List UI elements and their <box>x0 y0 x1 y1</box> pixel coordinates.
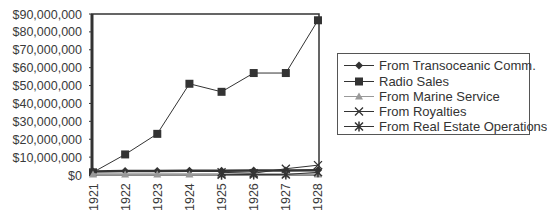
square-marker <box>185 80 193 88</box>
y-tick-label: $40,000,000 <box>12 97 82 111</box>
legend-label: From Marine Service <box>379 89 500 104</box>
x-tick-label: 1924 <box>183 183 197 211</box>
y-tick-label: $60,000,000 <box>12 61 82 75</box>
legend-label: From Royalties <box>379 104 466 119</box>
series-lines <box>89 16 322 179</box>
y-tick-label: $70,000,000 <box>12 43 82 57</box>
x-tick-label: 1925 <box>215 183 229 211</box>
square-marker <box>250 69 258 77</box>
x-tick-label: 1922 <box>119 183 133 211</box>
legend-item: From Transoceanic Comm. <box>338 58 536 73</box>
x-tick-label: 1923 <box>151 183 165 211</box>
square-marker <box>121 150 129 158</box>
y-tick-label: $10,000,000 <box>12 151 82 165</box>
square-icon <box>342 74 376 89</box>
y-axis: $0$10,000,000$20,000,000$30,000,000$40,0… <box>12 8 92 183</box>
y-tick-label: $80,000,000 <box>12 25 82 39</box>
square-marker <box>218 88 226 96</box>
square-marker <box>153 130 161 138</box>
y-tick-label: $50,000,000 <box>12 79 82 93</box>
y-tick-label: $90,000,000 <box>12 8 82 22</box>
legend: From Transoceanic Comm.Radio SalesFrom M… <box>337 53 530 135</box>
series-radio-sales <box>89 16 322 176</box>
diamond-icon <box>342 58 376 73</box>
square-marker <box>282 69 290 77</box>
legend-label: Radio Sales <box>379 74 449 89</box>
x-tick-label: 1921 <box>87 183 101 211</box>
legend-item: From Real Estate Operations <box>338 119 547 134</box>
legend-item: Radio Sales <box>338 74 449 89</box>
triangle-icon <box>342 89 376 104</box>
square-marker <box>355 77 363 85</box>
legend-item: From Marine Service <box>338 89 500 104</box>
x-tick-label: 1926 <box>247 183 261 211</box>
y-tick-label: $20,000,000 <box>12 133 82 147</box>
x-axis: 19211922192319241925192619271928 <box>87 183 326 211</box>
diamond-marker <box>355 62 363 70</box>
y-tick-label: $30,000,000 <box>12 115 82 129</box>
x-tick-label: 1927 <box>279 183 293 211</box>
legend-label: From Transoceanic Comm. <box>379 58 536 73</box>
series-line <box>93 20 318 172</box>
legend-item: From Royalties <box>338 104 466 119</box>
x-icon <box>342 104 376 119</box>
x-tick-label: 1928 <box>311 183 325 211</box>
star-icon <box>342 119 376 134</box>
square-marker <box>314 16 322 24</box>
y-tick-label: $0 <box>68 169 82 183</box>
legend-label: From Real Estate Operations <box>379 119 547 134</box>
